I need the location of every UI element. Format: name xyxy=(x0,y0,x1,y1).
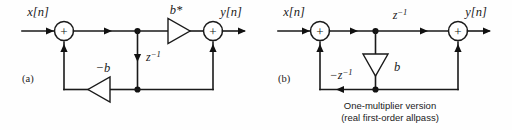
feedback-arrowhead-left-b xyxy=(316,44,323,52)
output-arrowhead-a xyxy=(238,27,246,34)
adder-right-plus-a: + xyxy=(209,24,216,39)
forward-delay-label-b: z−1 xyxy=(392,7,408,22)
caption-line-2: (real first-order allpass) xyxy=(341,112,439,123)
top-arrowhead-a xyxy=(104,27,112,34)
adder-left-plus-b: + xyxy=(316,24,323,39)
caption-line-1: One-multiplier version xyxy=(344,100,436,111)
output-label-b: y[n] xyxy=(463,5,487,19)
input-label-a: x[n] xyxy=(26,5,49,19)
feedback-delay-label-b: −z−1 xyxy=(330,67,353,82)
panel-tag-b: (b) xyxy=(278,73,291,85)
gain-label-forward-a: b* xyxy=(170,3,183,17)
signal-flow-diagram: + b* + x[n] y[n] z−1 xyxy=(0,0,512,130)
feedback-arrowhead-right-a xyxy=(209,44,216,52)
feedback-arrowhead-left-a xyxy=(60,44,67,52)
delay-label-a: z−1 xyxy=(145,49,161,64)
gain-triangle-b xyxy=(363,54,388,76)
panel-b: + z−1 + x[n] y[n] b xyxy=(278,5,491,123)
panel-tag-a: (a) xyxy=(22,73,34,85)
input-label-b: x[n] xyxy=(282,5,305,19)
feedback-delay-arrowhead-b xyxy=(336,86,344,93)
adder-right-plus-b: + xyxy=(454,24,461,39)
forward-delay-arrowhead-b xyxy=(420,27,428,34)
gain-label-b: b xyxy=(394,60,400,74)
gain-triangle-forward-a xyxy=(168,19,190,44)
feedback-arrowhead-right-b xyxy=(454,44,461,52)
output-label-a: y[n] xyxy=(218,5,242,19)
output-arrowhead-b xyxy=(483,27,491,34)
gain-label-feedback-a: −b xyxy=(96,61,111,75)
adder-left-plus-a: + xyxy=(60,24,67,39)
delay-arrowhead-a xyxy=(134,54,141,62)
gain-triangle-feedback-a xyxy=(88,77,110,102)
input-arrowhead-b xyxy=(302,27,310,34)
panel-a: + b* + x[n] y[n] z−1 xyxy=(22,3,246,102)
input-arrowhead-a xyxy=(46,27,54,34)
figure-root: + b* + x[n] y[n] z−1 xyxy=(0,0,512,130)
top-arrowhead-b xyxy=(350,27,358,34)
